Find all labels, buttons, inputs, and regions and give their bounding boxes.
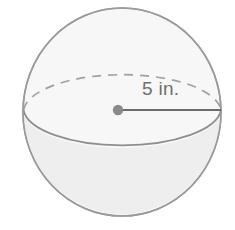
- sphere-drawing: [0, 0, 235, 230]
- radius-dimension-label: 5 in.: [142, 79, 179, 98]
- sphere-figure: 5 in.: [0, 0, 235, 230]
- center-point-dot: [113, 105, 123, 115]
